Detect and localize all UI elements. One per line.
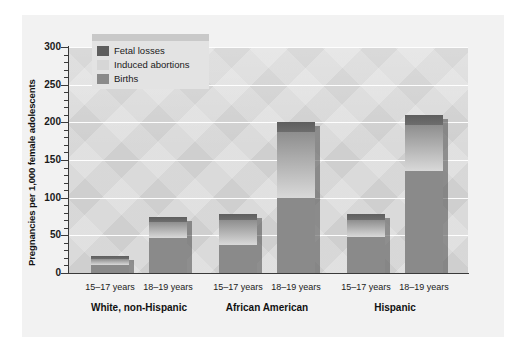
segment-fetal-losses	[405, 115, 443, 125]
bar-2-2	[277, 122, 315, 273]
y-major-tick	[61, 235, 68, 236]
chart-figure: Pregnancies per 1,000 female adolescents…	[0, 0, 526, 351]
segment-births	[219, 245, 257, 273]
y-minor-tick	[64, 107, 68, 108]
segment-births	[91, 265, 129, 273]
bar-shadow	[257, 218, 262, 273]
legend-item-induced-abortions: Induced abortions	[97, 58, 205, 71]
y-minor-tick	[64, 243, 68, 244]
legend-item-fetal-losses: Fetal losses	[97, 44, 205, 57]
y-minor-tick	[64, 220, 68, 221]
bar-shadow	[443, 119, 448, 273]
y-minor-tick	[64, 205, 68, 206]
segment-induced-abortions	[277, 132, 315, 198]
y-minor-tick	[64, 145, 68, 146]
y-major-tick	[61, 273, 68, 274]
y-minor-tick	[64, 250, 68, 251]
bar-1-1	[91, 256, 129, 273]
y-minor-tick	[64, 137, 68, 138]
y-tick-label: 200	[21, 116, 61, 127]
y-minor-tick	[64, 168, 68, 169]
segment-births	[347, 237, 385, 273]
legend-item-births: Births	[97, 72, 205, 85]
y-minor-tick	[64, 115, 68, 116]
bar-1-2	[149, 217, 187, 273]
legend-label-fetal-losses: Fetal losses	[114, 45, 165, 56]
y-minor-tick	[64, 265, 68, 266]
y-tick-label: 300	[21, 41, 61, 52]
y-minor-tick	[64, 55, 68, 56]
y-minor-tick	[64, 175, 68, 176]
y-minor-tick	[64, 62, 68, 63]
y-minor-tick	[64, 183, 68, 184]
legend-label-induced-abortions: Induced abortions	[114, 59, 190, 70]
y-minor-tick	[64, 152, 68, 153]
bar-3-2	[405, 115, 443, 273]
y-major-tick	[61, 47, 68, 48]
y-tick-label: 250	[21, 79, 61, 90]
bar-shadow	[315, 126, 320, 273]
y-tick-label: 0	[21, 267, 61, 278]
y-minor-tick	[64, 130, 68, 131]
segment-induced-abortions	[405, 125, 443, 172]
segment-induced-abortions	[219, 220, 257, 245]
legend-swatch-fetal-losses-icon	[97, 46, 109, 56]
y-major-tick	[61, 85, 68, 86]
x-age-label: 18–19 years	[390, 282, 458, 292]
segment-births	[277, 198, 315, 273]
legend-swatch-births-icon	[97, 74, 109, 84]
y-minor-tick	[64, 228, 68, 229]
y-minor-tick	[64, 213, 68, 214]
y-tick-label: 150	[21, 154, 61, 165]
legend-swatch-induced-abortions-icon	[97, 60, 109, 70]
chart-legend: Fetal losses Induced abortions Births	[92, 34, 209, 89]
y-tick-label: 50	[21, 229, 61, 240]
y-minor-tick	[64, 258, 68, 259]
bar-shadow	[187, 221, 192, 273]
y-axis-line	[68, 46, 69, 274]
y-major-tick	[61, 122, 68, 123]
bar-shadow	[129, 260, 134, 273]
x-age-label: 18–19 years	[262, 282, 330, 292]
x-age-label: 18–19 years	[134, 282, 202, 292]
segment-births	[405, 171, 443, 273]
segment-births	[149, 238, 187, 273]
y-tick-label: 100	[21, 192, 61, 203]
segment-induced-abortions	[347, 220, 385, 237]
x-axis-line	[68, 273, 469, 274]
y-major-tick	[61, 198, 68, 199]
y-minor-tick	[64, 70, 68, 71]
bar-2-1	[219, 214, 257, 273]
bar-3-1	[347, 214, 385, 273]
segment-fetal-losses	[277, 122, 315, 132]
y-axis-tick-labels: 050100150200250300	[14, 0, 61, 351]
y-major-tick	[61, 160, 68, 161]
legend-label-births: Births	[114, 73, 138, 84]
x-group-label: Hispanic	[315, 302, 475, 313]
bar-shadow	[385, 218, 390, 273]
y-minor-tick	[64, 92, 68, 93]
y-minor-tick	[64, 100, 68, 101]
y-minor-tick	[64, 77, 68, 78]
segment-induced-abortions	[149, 222, 187, 239]
y-minor-tick	[64, 190, 68, 191]
